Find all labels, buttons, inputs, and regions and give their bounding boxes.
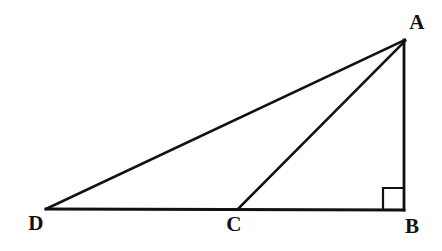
vertex-label-B: B <box>405 216 419 237</box>
vertex-label-D: D <box>28 213 43 234</box>
geometry-figure: A B C D <box>0 0 442 251</box>
vertex-label-C: C <box>226 214 241 235</box>
segment-DB-baseline <box>46 209 404 210</box>
figure-canvas <box>0 0 442 251</box>
vertex-label-A: A <box>409 12 424 33</box>
